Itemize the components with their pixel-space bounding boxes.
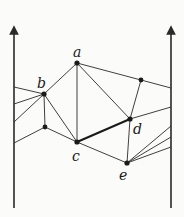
edge-b-a: [44, 63, 77, 94]
graph-diagram: a b c d e: [0, 0, 184, 217]
label-a: a: [73, 44, 81, 60]
edge-d-wall: [130, 107, 171, 119]
node-e: [124, 160, 129, 165]
edge-b-p2: [44, 94, 45, 127]
label-c: c: [72, 148, 80, 164]
node-a: [74, 60, 79, 65]
edge-b-c: [44, 94, 77, 142]
label-d: d: [133, 121, 142, 137]
edge-p1-wall: [141, 80, 171, 88]
label-b: b: [37, 75, 46, 91]
edge-e-wall-2: [127, 137, 171, 163]
edge-e-wall-3: [127, 147, 171, 163]
edge-d-p1: [130, 80, 141, 119]
node-p1: [139, 78, 144, 83]
edge-wall-b-2: [14, 94, 44, 104]
edge-c-e: [77, 142, 127, 163]
node-c: [74, 139, 79, 144]
node-b: [41, 91, 46, 96]
edge-d-e: [127, 119, 130, 163]
node-d: [127, 116, 132, 121]
label-e: e: [119, 167, 127, 183]
node-p2: [43, 125, 48, 130]
edge-c-d-bold: [77, 119, 130, 142]
edge-p2-wall: [14, 127, 45, 143]
edge-a-d: [77, 63, 130, 119]
edge-wall-b-3: [14, 94, 44, 122]
edge-a-p1: [77, 63, 141, 80]
